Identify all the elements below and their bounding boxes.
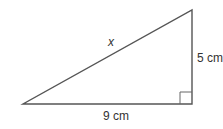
vertical-side-label: 5 cm [197,52,223,64]
right-angle-marker [180,92,192,104]
hypotenuse-label: x [108,36,114,48]
right-triangle [23,10,192,104]
horizontal-side-label: 9 cm [103,110,129,122]
